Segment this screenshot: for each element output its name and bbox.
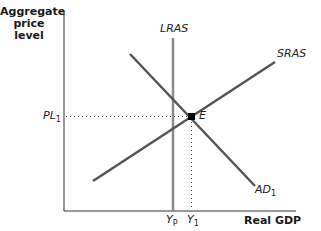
sras-label: SRAS (277, 47, 306, 60)
yp-label: YP (166, 213, 178, 228)
y-axis-label: Aggregate price level (0, 6, 58, 42)
pl1-label: PL1 (43, 109, 61, 124)
equilibrium-point (188, 113, 195, 120)
lras-label: LRAS (160, 22, 188, 35)
x-axis-label: Real GDP (244, 214, 301, 227)
equilibrium-label: E (199, 109, 206, 122)
y1-label: Y1 (187, 213, 199, 228)
ad-label: AD1 (255, 183, 276, 198)
y-axis-label-line: level (0, 30, 58, 42)
sras-curve (93, 62, 275, 181)
